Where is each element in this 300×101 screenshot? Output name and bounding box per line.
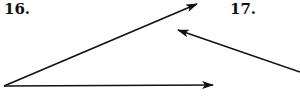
- problem-16-angle: [4, 4, 213, 86]
- lower-ray: [4, 85, 213, 86]
- ray-17: [178, 30, 300, 72]
- problem-17-ray: [178, 30, 300, 72]
- geometry-figure: [0, 0, 300, 101]
- upper-ray: [4, 4, 197, 86]
